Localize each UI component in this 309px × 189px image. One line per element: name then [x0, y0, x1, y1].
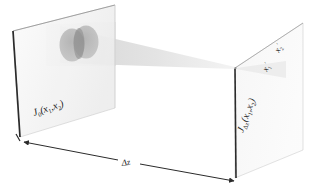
- source-plane: [13, 5, 115, 137]
- diagram-canvas: J0(x1,x2) JΔz(x1,x2) Δz x2′ x1′: [0, 0, 309, 189]
- observation-plane-vertical-edge: [235, 68, 236, 178]
- distance-arrow-left-segment: [24, 142, 118, 160]
- distance-label: Δz: [120, 157, 132, 168]
- coherence-propagation-figure: J0(x1,x2) JΔz(x1,x2) Δz x2′ x1′: [0, 0, 309, 189]
- source-plane-surface: [13, 5, 115, 137]
- beam-focus-point: [234, 67, 236, 69]
- distance-arrow-right-segment: [140, 164, 234, 181]
- aperture-overlap-region: [74, 28, 85, 59]
